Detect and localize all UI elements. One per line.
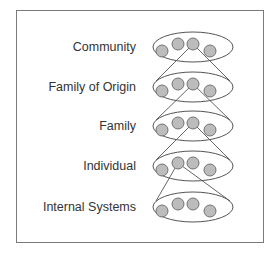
member-circle [156,164,168,176]
member-circle [156,45,168,57]
nested-systems-graphic [0,0,280,253]
member-circle [172,38,184,50]
member-circle [204,85,216,97]
member-circle [172,78,184,90]
member-circle [204,45,216,57]
member-circle [187,198,199,210]
member-circle [156,85,168,97]
member-circle [172,117,184,129]
member-circle [204,124,216,136]
member-circle [204,164,216,176]
member-circle [187,38,199,50]
member-circle [187,117,199,129]
member-circle [156,205,168,217]
member-circle [172,198,184,210]
member-circle [156,124,168,136]
member-circle [204,205,216,217]
member-circle [187,78,199,90]
member-circle [187,157,199,169]
member-circle [172,157,184,169]
